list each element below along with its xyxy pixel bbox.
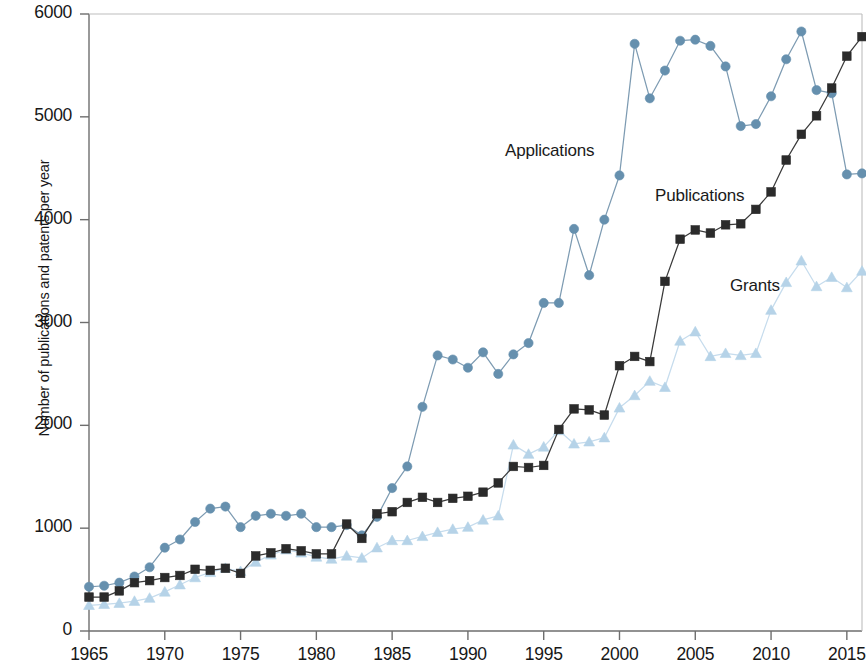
- data-point: [221, 564, 230, 573]
- data-point: [720, 348, 731, 358]
- data-point: [509, 462, 518, 471]
- data-point: [812, 112, 821, 121]
- data-point: [327, 523, 336, 532]
- data-point: [267, 549, 276, 558]
- data-point: [281, 511, 290, 520]
- data-point: [388, 483, 397, 492]
- data-point: [508, 439, 519, 449]
- data-point: [796, 255, 807, 265]
- data-point: [555, 425, 564, 434]
- chart-figure: Number of publications and patents per y…: [0, 0, 866, 670]
- data-point: [676, 235, 685, 244]
- data-point: [372, 542, 383, 552]
- x-axis-tick-labels: 1965197019751980198519901995200020052010…: [0, 644, 866, 670]
- data-point: [448, 355, 457, 364]
- series-applications: [84, 27, 866, 592]
- data-point: [706, 41, 715, 50]
- data-point: [858, 32, 866, 41]
- data-point: [433, 351, 442, 360]
- data-point: [630, 352, 639, 361]
- data-point: [418, 493, 427, 502]
- data-point: [312, 523, 321, 532]
- data-point: [433, 498, 442, 507]
- data-point: [160, 543, 169, 552]
- data-point: [206, 566, 215, 575]
- data-point: [221, 502, 230, 511]
- data-point: [690, 326, 701, 336]
- data-point: [160, 573, 169, 582]
- data-point: [448, 494, 457, 503]
- data-point: [736, 121, 745, 130]
- data-point: [752, 205, 761, 214]
- data-point: [585, 271, 594, 280]
- data-point: [145, 563, 154, 572]
- data-point: [539, 298, 548, 307]
- data-point: [342, 520, 351, 529]
- x-tick-label: 1965: [54, 644, 124, 665]
- data-point: [159, 587, 170, 597]
- data-point: [479, 488, 488, 497]
- data-point: [645, 94, 654, 103]
- x-tick-label: 1995: [509, 644, 579, 665]
- data-point: [175, 579, 186, 589]
- x-tick-label: 1980: [281, 644, 351, 665]
- data-point: [176, 571, 185, 580]
- data-point: [766, 92, 775, 101]
- data-point: [463, 363, 472, 372]
- data-point: [614, 402, 625, 412]
- series-grants: [84, 255, 866, 609]
- data-point: [827, 84, 836, 93]
- data-point: [539, 461, 548, 470]
- axes: [80, 14, 862, 640]
- chart-canvas: [0, 0, 866, 670]
- data-point: [615, 361, 624, 370]
- data-point: [797, 130, 806, 139]
- data-point: [706, 229, 715, 238]
- series-label-publications: Publications: [655, 186, 744, 206]
- data-point: [145, 576, 154, 585]
- x-tick-label: 1975: [206, 644, 276, 665]
- data-point: [327, 550, 336, 559]
- data-point: [464, 492, 473, 501]
- data-point: [236, 569, 245, 578]
- x-tick-label: 1970: [130, 644, 200, 665]
- data-point: [751, 348, 762, 358]
- data-point: [599, 432, 610, 442]
- data-point: [644, 376, 655, 386]
- x-tick-label: 2000: [584, 644, 654, 665]
- data-point: [782, 156, 791, 165]
- data-point: [236, 523, 245, 532]
- data-point: [175, 535, 184, 544]
- data-point: [341, 551, 352, 561]
- data-point: [403, 498, 412, 507]
- data-point: [843, 52, 852, 61]
- data-point: [494, 479, 503, 488]
- data-point: [857, 266, 866, 276]
- data-point: [676, 36, 685, 45]
- data-point: [797, 27, 806, 36]
- data-point: [206, 504, 215, 513]
- data-point: [84, 582, 93, 591]
- data-point: [691, 35, 700, 44]
- data-point: [782, 55, 791, 64]
- data-point: [115, 578, 124, 587]
- x-tick-label: 2010: [736, 644, 806, 665]
- data-point: [767, 188, 776, 197]
- series-label-applications: Applications: [505, 141, 594, 161]
- data-point: [266, 509, 275, 518]
- data-point: [524, 463, 533, 472]
- data-point: [418, 402, 427, 411]
- data-point: [478, 348, 487, 357]
- data-point: [812, 85, 821, 94]
- data-point: [721, 62, 730, 71]
- data-point: [388, 507, 397, 516]
- data-point: [600, 411, 609, 420]
- data-point: [191, 565, 200, 574]
- x-tick-label: 2005: [660, 644, 730, 665]
- data-point: [373, 509, 382, 518]
- data-point: [509, 350, 518, 359]
- data-point: [100, 581, 109, 590]
- data-point: [826, 272, 837, 282]
- data-point: [600, 215, 609, 224]
- data-point: [282, 544, 291, 553]
